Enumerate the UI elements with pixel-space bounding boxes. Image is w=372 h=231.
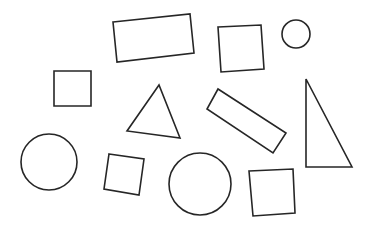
left-square	[54, 71, 91, 106]
shapes-svg	[0, 0, 372, 231]
bottom-right-square	[249, 169, 295, 216]
tilted-rectangle	[207, 89, 286, 153]
left-circle	[21, 134, 77, 190]
shapes-canvas	[0, 0, 372, 231]
small-tilted-square	[104, 154, 144, 195]
small-circle	[282, 20, 310, 48]
center-triangle	[127, 85, 180, 138]
top-rectangle	[113, 14, 194, 62]
top-right-square	[218, 25, 264, 72]
bottom-circle	[169, 153, 231, 215]
right-triangle	[306, 79, 352, 167]
